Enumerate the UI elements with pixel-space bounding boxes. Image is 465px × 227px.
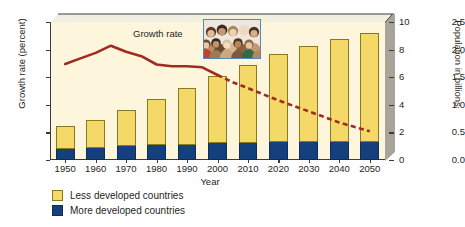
bar-segment-less-developed bbox=[117, 110, 136, 146]
y-tick-label-right: 6 bbox=[399, 71, 421, 82]
legend-item-more-developed: More developed countries bbox=[52, 203, 185, 218]
y-tick-right bbox=[389, 22, 394, 23]
y-tick-right bbox=[389, 105, 394, 106]
bar-segment-less-developed bbox=[178, 88, 197, 145]
bar-segment-more-developed bbox=[117, 146, 136, 160]
x-axis-title: Year bbox=[170, 176, 250, 187]
bar-segment-more-developed bbox=[269, 142, 288, 160]
y-tick-label-left: 2.0 bbox=[421, 44, 465, 55]
y-tick-left bbox=[46, 22, 50, 23]
table-row bbox=[117, 110, 136, 160]
plot-right-face bbox=[385, 14, 395, 161]
y-tick-label-left: 0.5 bbox=[421, 126, 465, 137]
y-tick-right bbox=[389, 132, 394, 133]
table-row bbox=[239, 65, 258, 160]
bar-segment-more-developed bbox=[147, 145, 166, 160]
crowd-photo-inset bbox=[203, 19, 261, 59]
bar-segment-less-developed bbox=[269, 54, 288, 142]
x-tick-label: 2050 bbox=[350, 163, 390, 174]
bar-segment-less-developed bbox=[239, 65, 258, 144]
y-tick-label-left: 1.0 bbox=[421, 99, 465, 110]
y-tick-right bbox=[389, 50, 394, 51]
y-tick-label-left: 1.5 bbox=[421, 71, 465, 82]
growth-rate-label: Growth rate bbox=[133, 28, 183, 39]
table-row bbox=[86, 120, 105, 160]
bar-segment-less-developed bbox=[56, 126, 75, 150]
bar-segment-more-developed bbox=[360, 142, 379, 160]
y-axis-left-title: Growth rate (percent) bbox=[16, 4, 27, 124]
y-tick-label-right: 0 bbox=[399, 154, 421, 165]
y-tick-label-right: 2 bbox=[399, 126, 421, 137]
bar-segment-less-developed bbox=[147, 99, 166, 145]
y-tick-left bbox=[46, 105, 50, 106]
legend-label-more-developed: More developed countries bbox=[70, 205, 185, 216]
legend: Less developed countries More developed … bbox=[52, 188, 185, 218]
table-row bbox=[56, 126, 75, 161]
table-row bbox=[269, 54, 288, 160]
bar-segment-more-developed bbox=[299, 142, 318, 160]
table-row bbox=[360, 33, 379, 160]
bar-segment-less-developed bbox=[208, 76, 227, 144]
legend-swatch-less-developed bbox=[52, 190, 63, 201]
bar-segment-less-developed bbox=[330, 39, 349, 143]
population-growth-chart: Growth rate (percent) Population in bill… bbox=[0, 0, 465, 227]
legend-swatch-more-developed bbox=[52, 205, 63, 216]
y-tick-left bbox=[46, 132, 50, 133]
legend-item-less-developed: Less developed countries bbox=[52, 188, 185, 203]
y-tick-label-right: 8 bbox=[399, 44, 421, 55]
y-tick-right bbox=[389, 77, 394, 78]
bar-segment-more-developed bbox=[86, 148, 105, 160]
y-tick-label-right: 4 bbox=[399, 99, 421, 110]
bar-segment-more-developed bbox=[330, 142, 349, 160]
bar-segment-less-developed bbox=[360, 33, 379, 142]
table-row bbox=[330, 39, 349, 160]
bar-segment-more-developed bbox=[178, 145, 197, 160]
bar-segment-less-developed bbox=[299, 46, 318, 143]
crowd-illustration bbox=[204, 20, 260, 58]
y-tick-right bbox=[389, 160, 394, 161]
table-row bbox=[299, 46, 318, 161]
table-row bbox=[178, 88, 197, 160]
y-tick-label-left: 2.5 bbox=[421, 16, 465, 27]
bar-segment-more-developed bbox=[56, 149, 75, 160]
y-tick-label-right: 10 bbox=[399, 16, 421, 27]
y-tick-left bbox=[46, 77, 50, 78]
y-tick-left bbox=[46, 160, 50, 161]
table-row bbox=[147, 99, 166, 160]
y-tick-left bbox=[46, 50, 50, 51]
y-tick-label-left: 0.0 bbox=[421, 154, 465, 165]
bar-segment-more-developed bbox=[239, 143, 258, 160]
bar-segment-more-developed bbox=[208, 143, 227, 160]
table-row bbox=[208, 76, 227, 160]
legend-label-less-developed: Less developed countries bbox=[70, 190, 183, 201]
bar-segment-less-developed bbox=[86, 120, 105, 148]
